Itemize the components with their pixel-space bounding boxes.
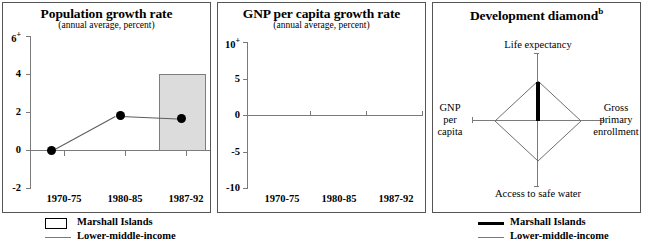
comparator-line-segment-1 bbox=[51, 116, 115, 152]
panel-population-growth-rate: Population growth rate (annual average, … bbox=[2, 2, 211, 213]
y-axis-label-10: 10+ bbox=[214, 36, 240, 50]
panel-title: Development diamondb bbox=[433, 6, 640, 24]
legend-key-thin-line-icon bbox=[478, 232, 504, 238]
panel-title-footnote-marker: b bbox=[598, 6, 603, 16]
data-point-1987-92 bbox=[177, 114, 186, 123]
panel-title-text: Development diamond bbox=[470, 8, 598, 23]
gnp-per-capita-line1: GNP bbox=[427, 102, 473, 114]
x-axis-label-1970-75: 1970-75 bbox=[35, 193, 93, 204]
y-axis-label-minus2: -2 bbox=[0, 183, 21, 193]
y-axis-label-minus10: -10 bbox=[214, 183, 240, 193]
panel-development-diamond: Development diamondb Life expectancy Acc… bbox=[432, 2, 641, 213]
x-axis-label-1980-85: 1980-85 bbox=[96, 193, 154, 204]
legend-key-thick-line-icon bbox=[478, 218, 504, 225]
y-tick-5 bbox=[243, 79, 248, 80]
x-axis-zero-line bbox=[247, 115, 423, 116]
y-axis-label-5: 5 bbox=[214, 74, 240, 84]
data-point-1980-85 bbox=[116, 111, 125, 120]
diamond-axis-label-gnp-per-capita: GNP per capita bbox=[427, 102, 473, 138]
y-axis-label-10-value: 10 bbox=[225, 39, 236, 50]
y-axis-label-0: 0 bbox=[214, 110, 240, 120]
data-point-1970-75 bbox=[47, 146, 56, 155]
x-axis-label-1970-75: 1970-75 bbox=[253, 193, 311, 204]
gnp-per-capita-line2: per bbox=[427, 114, 473, 126]
panel-gnp-per-capita-growth-rate: GNP per capita growth rate (annual avera… bbox=[217, 2, 426, 213]
y-axis-label-6: 6+ bbox=[0, 30, 21, 44]
y-tick-4 bbox=[26, 74, 31, 75]
x-tick-1980-85 bbox=[125, 151, 126, 156]
x-tick-1980-85 bbox=[366, 111, 367, 116]
figure-sheet: Population growth rate (annual average, … bbox=[0, 0, 645, 246]
y-tick-minus5 bbox=[243, 152, 248, 153]
x-axis-label-1980-85: 1980-85 bbox=[310, 193, 368, 204]
diamond-axis-label-life-expectancy: Life expectancy bbox=[463, 39, 613, 51]
marshall-islands-value-bar bbox=[536, 82, 540, 121]
legend-label: Lower-middle-income bbox=[77, 230, 176, 241]
x-axis-label-1987-92: 1987-92 bbox=[367, 193, 425, 204]
x-tick-1987-92 bbox=[186, 151, 187, 156]
gnp-per-capita-line3: capita bbox=[427, 126, 473, 138]
legend-label: Lower-middle-income bbox=[510, 230, 609, 241]
gross-primary-enrollment-line1: Gross bbox=[589, 102, 643, 114]
gross-primary-enrollment-line2: primary bbox=[589, 114, 643, 126]
y-tick-10 bbox=[243, 42, 248, 43]
y-tick-6 bbox=[26, 36, 31, 37]
x-tick-1970-75 bbox=[310, 111, 311, 116]
y-tick-minus2 bbox=[26, 188, 31, 189]
legend-key-box-icon bbox=[45, 218, 67, 229]
legend-key-thin-line-icon bbox=[45, 232, 71, 238]
y-axis-label-4: 4 bbox=[0, 69, 21, 79]
diamond-axis-label-gross-primary-enrollment: Gross primary enrollment bbox=[589, 102, 643, 138]
y-tick-2 bbox=[26, 112, 31, 113]
y-tick-minus10 bbox=[243, 188, 248, 189]
gross-primary-enrollment-line3: enrollment bbox=[589, 126, 643, 138]
y-axis-label-0: 0 bbox=[0, 145, 21, 155]
legend-label: Marshall Islands bbox=[77, 216, 153, 227]
x-axis-label-1987-92: 1987-92 bbox=[157, 193, 215, 204]
panel-subtitle: (annual average, percent) bbox=[218, 20, 425, 30]
bar-marshall-1987-92 bbox=[159, 74, 206, 151]
x-tick-1970-75 bbox=[64, 151, 65, 156]
panel-subtitle: (annual average, percent) bbox=[3, 20, 210, 30]
y-axis-plus-sign: + bbox=[235, 36, 240, 45]
x-tick-1987-92 bbox=[422, 111, 423, 116]
y-axis-label-2: 2 bbox=[0, 107, 21, 117]
y-axis-label-minus5: -5 bbox=[214, 147, 240, 157]
diamond-axis-label-access-to-safe-water: Access to safe water bbox=[463, 188, 613, 200]
diamond-axis-end-tick-top bbox=[534, 53, 539, 54]
y-axis-plus-sign: + bbox=[16, 30, 21, 39]
legend-label: Marshall Islands bbox=[510, 216, 586, 227]
diamond-axis-end-tick-bottom bbox=[534, 186, 539, 187]
